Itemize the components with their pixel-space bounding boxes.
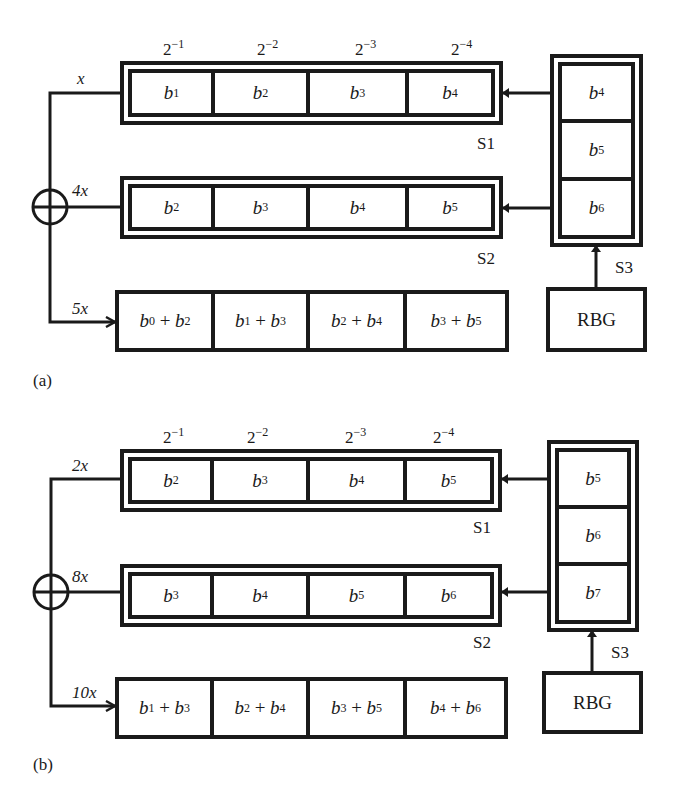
- register-label-s2: S2: [473, 634, 491, 651]
- s2-cell: b3: [132, 576, 210, 615]
- result-cell: b2 + b4: [310, 294, 403, 348]
- s2-cell: b2: [132, 188, 211, 227]
- weight-label: 2−4: [433, 426, 454, 446]
- s2-cell: b4: [214, 576, 306, 615]
- result-cell: b3 + b5: [310, 681, 403, 735]
- s3-cell: b7: [559, 566, 627, 620]
- weight-label: 2−3: [345, 426, 366, 446]
- weight-label: 2−2: [247, 426, 268, 446]
- s1-cell: b4: [409, 73, 491, 113]
- s1-cell: b1: [132, 73, 211, 113]
- wire-label-x: x: [77, 70, 85, 87]
- rbg-block: RBG: [550, 291, 643, 348]
- s3-cell: b6: [562, 181, 631, 235]
- s3-cell: b4: [562, 66, 631, 119]
- rbg-block: RBG: [546, 675, 639, 730]
- wire-label-2x: 2x: [72, 457, 88, 474]
- s3-cell: b5: [559, 452, 627, 505]
- wire-label-10x: 10x: [72, 684, 97, 701]
- wire-label-8x: 8x: [72, 568, 88, 585]
- s1-cell: b3: [214, 461, 306, 500]
- register-label-s3: S3: [611, 644, 629, 661]
- weight-label: 2−1: [163, 426, 184, 446]
- s1-cell: b5: [407, 461, 490, 500]
- s2-cell: b6: [407, 576, 490, 615]
- result-cell: b1 + b3: [215, 294, 306, 348]
- register-label-s1: S1: [473, 519, 491, 536]
- s2-cell: b5: [310, 576, 403, 615]
- s3-cell: b5: [562, 123, 631, 177]
- result-cell: b2 + b4: [214, 681, 306, 735]
- panel-caption-b: (b): [33, 756, 53, 773]
- wire-label-4x: 4x: [72, 182, 88, 199]
- weight-label: 2−3: [355, 38, 376, 58]
- s1-cell: b2: [215, 73, 306, 113]
- result-cell: b3 + b5: [407, 294, 505, 348]
- wire-label-5x: 5x: [72, 300, 88, 317]
- s1-cell: b3: [310, 73, 405, 113]
- weight-label: 2−1: [163, 38, 184, 58]
- result-cell: b1 + b3: [119, 681, 210, 735]
- s2-cell: b5: [409, 188, 491, 227]
- s1-cell: b4: [310, 461, 403, 500]
- weight-label: 2−2: [257, 38, 278, 58]
- result-cell: b0 + b2: [119, 294, 211, 348]
- s1-cell: b2: [132, 461, 210, 500]
- register-label-s3: S3: [615, 259, 633, 276]
- result-cell: b4 + b6: [407, 681, 504, 735]
- s3-cell: b6: [559, 509, 627, 562]
- s2-cell: b4: [310, 188, 405, 227]
- panel-caption-a: (a): [33, 372, 52, 389]
- register-label-s2: S2: [477, 250, 495, 267]
- register-label-s1: S1: [477, 135, 495, 152]
- weight-label: 2−4: [451, 38, 472, 58]
- s2-cell: b3: [215, 188, 306, 227]
